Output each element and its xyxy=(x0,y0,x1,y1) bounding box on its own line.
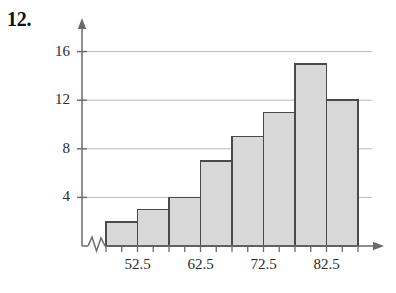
x-axis-tick-label: 72.5 xyxy=(236,257,292,272)
histogram-figure: 12. 48121652.562.572.582.5 xyxy=(0,0,396,293)
histogram-bar xyxy=(232,137,264,246)
y-axis-tick-label: 16 xyxy=(40,44,70,59)
y-axis-arrow xyxy=(78,18,86,29)
x-axis-tick-label: 52.5 xyxy=(110,257,166,272)
axis-break-zigzag-icon xyxy=(88,237,105,251)
x-axis-tick-label: 82.5 xyxy=(299,257,355,272)
x-axis-tick-label: 62.5 xyxy=(173,257,229,272)
histogram-bar xyxy=(327,100,359,246)
y-axis-tick-label: 4 xyxy=(40,189,70,204)
y-axis-tick-label: 8 xyxy=(40,141,70,156)
x-axis-arrow xyxy=(373,242,384,250)
histogram-bar xyxy=(106,222,138,246)
histogram-bar xyxy=(138,210,170,246)
y-axis-tick-label: 12 xyxy=(40,92,70,107)
histogram-bar xyxy=(264,112,296,246)
histogram-bar xyxy=(295,64,327,246)
histogram-bar xyxy=(201,161,233,246)
histogram-plot-area: 48121652.562.572.582.5 xyxy=(0,0,396,293)
histogram-bar xyxy=(169,197,201,246)
